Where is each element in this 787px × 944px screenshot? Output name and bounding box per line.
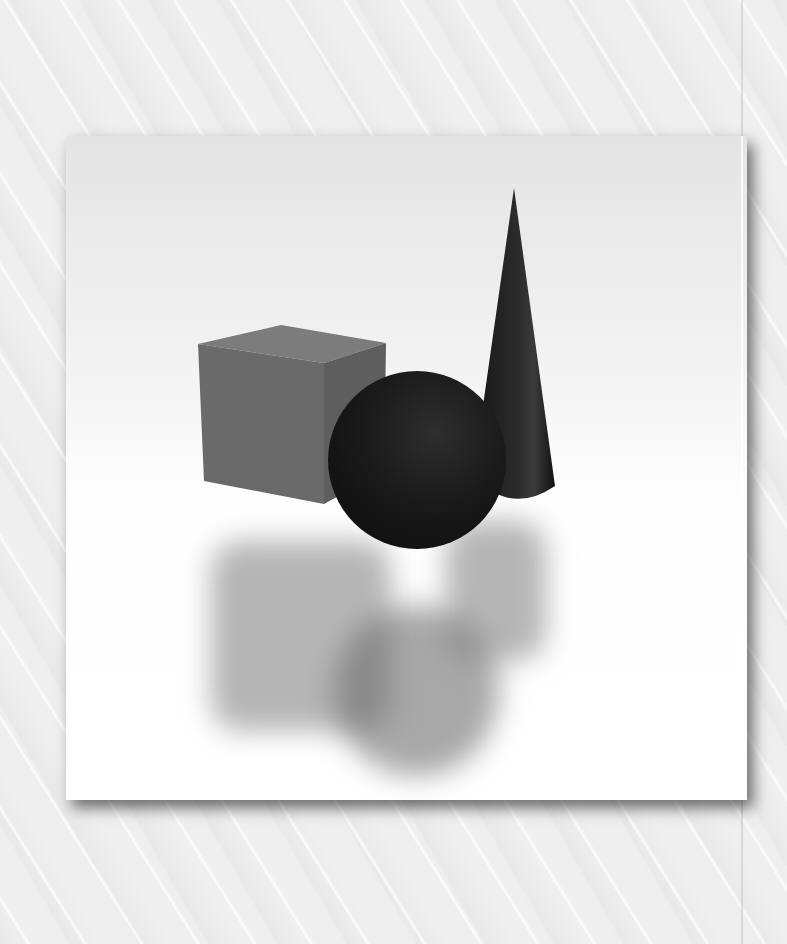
card-edge-highlight	[741, 136, 743, 800]
image-card	[66, 136, 747, 800]
cone-reflection	[446, 521, 546, 661]
sphere-shape	[328, 371, 506, 549]
